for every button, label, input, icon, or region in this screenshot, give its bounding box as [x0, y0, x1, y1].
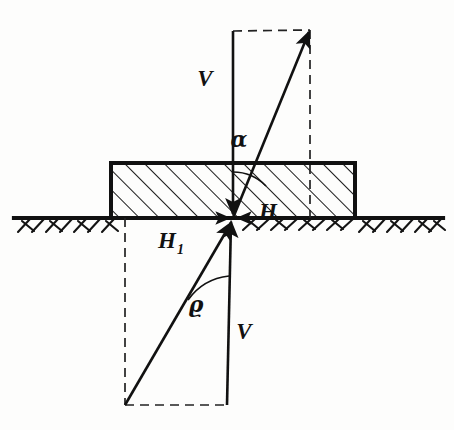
- label-angle-rho: ϱ: [189, 291, 204, 317]
- label-h1-base: H: [157, 228, 177, 253]
- label-upper-vertical-force: V: [197, 66, 214, 91]
- label-lower-vertical-force: V: [236, 319, 253, 344]
- figure-root: V α H H1 ϱ V: [0, 0, 454, 430]
- label-horizontal-force-h: H: [258, 199, 278, 224]
- force-parallelogram-diagram: V α H H1 ϱ V: [0, 0, 454, 430]
- label-angle-alpha: α: [231, 126, 248, 152]
- label-h1-subscript: 1: [177, 242, 184, 257]
